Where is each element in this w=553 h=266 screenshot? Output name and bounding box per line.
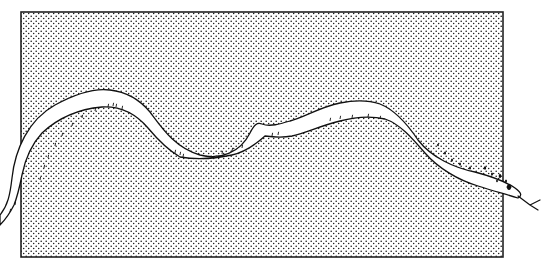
head-spot bbox=[505, 180, 507, 183]
scale-tick bbox=[183, 154, 184, 157]
scale-tick bbox=[40, 177, 41, 180]
scale-tick bbox=[15, 202, 16, 205]
scale-tick bbox=[44, 165, 45, 168]
head-spot bbox=[484, 166, 486, 170]
scale-tick bbox=[113, 103, 114, 106]
scale-tick bbox=[95, 108, 96, 111]
scale-tick bbox=[222, 151, 223, 154]
head-spot bbox=[496, 180, 498, 183]
head-spot bbox=[459, 163, 461, 166]
snake-tongue bbox=[518, 196, 540, 210]
scale-tick bbox=[108, 104, 109, 107]
scale-tick bbox=[55, 143, 56, 146]
scale-tick bbox=[380, 116, 381, 119]
scale-tick bbox=[10, 209, 11, 212]
scale-tick bbox=[368, 114, 369, 117]
snake-illustration bbox=[0, 0, 553, 266]
head-spot bbox=[437, 144, 439, 147]
scale-tick bbox=[352, 115, 353, 118]
scale-tick bbox=[82, 115, 83, 118]
scale-tick bbox=[122, 106, 123, 109]
head-spot bbox=[451, 159, 453, 162]
scale-tick bbox=[175, 150, 176, 153]
snake-eye-icon bbox=[506, 185, 511, 188]
scale-tick bbox=[232, 148, 233, 151]
scale-tick bbox=[330, 118, 331, 121]
scale-tick bbox=[62, 133, 63, 136]
scale-tick bbox=[340, 116, 341, 119]
scale-tick bbox=[272, 133, 273, 136]
head-spot bbox=[469, 167, 471, 170]
scale-tick bbox=[242, 145, 243, 148]
scale-tick bbox=[72, 123, 73, 126]
scale-tick bbox=[116, 104, 117, 107]
head-spot bbox=[499, 174, 502, 178]
head-spot bbox=[444, 152, 446, 155]
scale-tick bbox=[278, 132, 279, 135]
scale-tick bbox=[48, 155, 49, 158]
head-spot bbox=[491, 173, 493, 176]
scale-tick bbox=[180, 152, 181, 155]
